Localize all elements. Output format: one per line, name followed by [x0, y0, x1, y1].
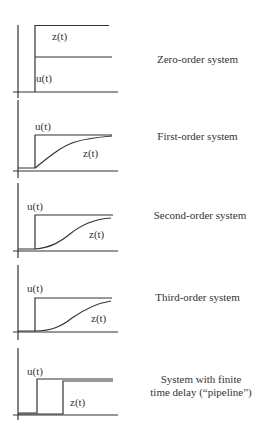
panel-title-zero-order: Zero-order system [140, 53, 255, 66]
z-label: z(t) [91, 312, 106, 324]
panel-first-order-plot [13, 100, 118, 178]
panel-title-line-2: time delay (“pipeline”) [140, 386, 262, 399]
z-label: z(t) [89, 228, 104, 240]
panel-title-second-order: Second-order system [140, 209, 260, 222]
u-step-curve [18, 379, 113, 413]
panel-title-third-order: Third-order system [140, 291, 255, 304]
panel-title-pipeline: System with finite time delay (“pipeline… [140, 373, 262, 399]
panel-title-first-order: First-order system [140, 130, 255, 143]
z-label: z(t) [83, 147, 98, 159]
u-label: u(t) [35, 120, 51, 132]
panel-pipeline-plot [13, 348, 118, 420]
u-label: u(t) [36, 72, 52, 84]
u-label: u(t) [27, 200, 43, 212]
panel-second-order-plot [13, 183, 118, 258]
panel-title-line-1: System with finite [140, 373, 262, 386]
z-delayed-step-curve [18, 381, 113, 414]
u-label: u(t) [27, 282, 43, 294]
z-first-order-curve [35, 136, 112, 168]
panel-third-order-plot [13, 265, 118, 340]
z-label: z(t) [70, 396, 85, 408]
z-label: z(t) [52, 30, 67, 42]
u-label: u(t) [27, 365, 43, 377]
